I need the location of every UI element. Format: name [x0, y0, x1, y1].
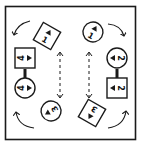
dashed-double-arrow-right-icon — [86, 52, 92, 98]
curved-arrow-bottom-left-icon — [16, 112, 34, 128]
dashed-double-arrow-left-icon — [57, 52, 63, 98]
curved-arrow-top-right-icon — [108, 24, 124, 36]
piece-label: 2 — [116, 55, 125, 61]
piece-square-4: 4 — [15, 48, 35, 68]
rotation-diagram: 1 1 2 2 3 3 4 4 — [0, 0, 141, 146]
curved-arrow-bottom-right-icon — [108, 111, 126, 128]
piece-circle-4: 4 — [15, 78, 35, 98]
piece-circle-3: 3 — [37, 97, 64, 124]
piece-square-3: 3 — [78, 99, 105, 126]
piece-label: 4 — [17, 85, 26, 91]
piece-label: 2 — [116, 85, 125, 91]
piece-circle-2: 2 — [107, 48, 127, 68]
piece-label: 4 — [17, 55, 26, 61]
piece-circle-1: 1 — [79, 18, 106, 45]
piece-square-2: 2 — [107, 78, 127, 98]
piece-square-1: 1 — [33, 22, 60, 49]
curved-arrow-top-left-icon — [14, 21, 30, 35]
